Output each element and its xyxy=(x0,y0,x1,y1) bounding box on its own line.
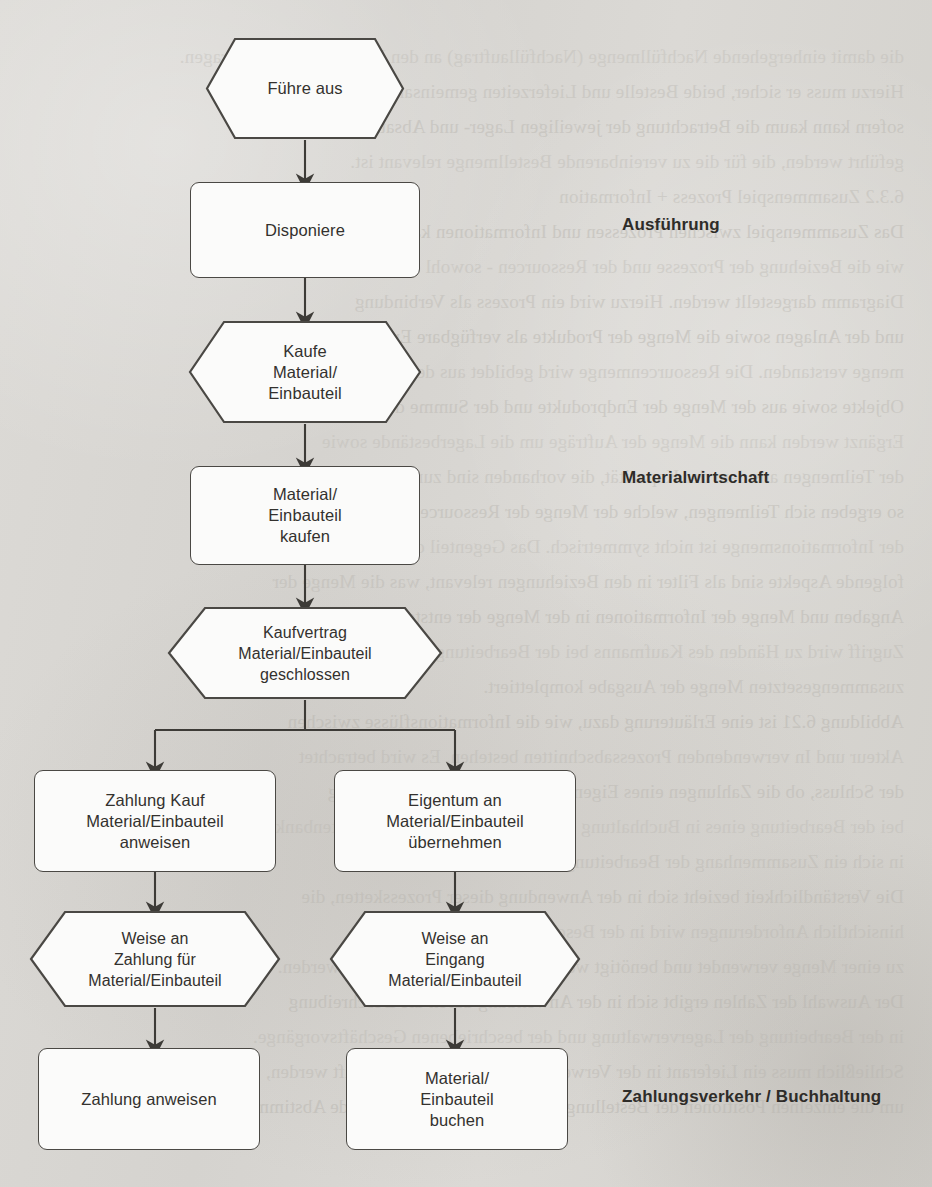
node-material-einbauteil-kaufen[interactable]: Material/Einbauteilkaufen xyxy=(190,466,420,565)
node-label: Material/Einbauteilkaufen xyxy=(262,484,347,547)
node-eigentum-uebernehmen[interactable]: Eigentum anMaterial/Einbauteilübernehmen xyxy=(334,770,576,872)
node-zahlung-anweisen[interactable]: Zahlung anweisen xyxy=(38,1048,260,1150)
node-label: Zahlung anweisen xyxy=(75,1089,223,1110)
node-label: KaufvertragMaterial/Einbauteilgeschlosse… xyxy=(232,622,378,685)
node-label: Eigentum anMaterial/Einbauteilübernehmen xyxy=(380,790,530,853)
node-weise-an-zahlung[interactable]: Weise anZahlung fürMaterial/Einbauteil xyxy=(29,910,281,1008)
node-label: Zahlung KaufMaterial/Einbauteilanweisen xyxy=(80,790,230,853)
node-label: Weise anZahlung fürMaterial/Einbauteil xyxy=(82,928,228,991)
node-weise-an-eingang[interactable]: Weise anEingangMaterial/Einbauteil xyxy=(329,910,581,1008)
flowchart-diagram: Führe aus Disponiere KaufeMaterial/Einba… xyxy=(0,0,932,1187)
swimlane-label-materialwirtschaft: Materialwirtschaft xyxy=(622,468,769,488)
node-label: Material/Einbauteilbuchen xyxy=(414,1068,499,1131)
node-zahlung-kauf-anweisen[interactable]: Zahlung KaufMaterial/Einbauteilanweisen xyxy=(34,770,276,872)
connector-lines xyxy=(0,0,932,1187)
node-label: Führe aus xyxy=(261,78,348,99)
node-label: KaufeMaterial/Einbauteil xyxy=(262,341,347,404)
node-label: Weise anEingangMaterial/Einbauteil xyxy=(382,928,528,991)
node-disponiere[interactable]: Disponiere xyxy=(190,182,420,278)
node-fuehre-aus[interactable]: Führe aus xyxy=(205,37,405,140)
node-material-einbauteil-buchen[interactable]: Material/Einbauteilbuchen xyxy=(346,1048,568,1150)
node-label: Disponiere xyxy=(259,220,351,241)
swimlane-label-zahlungsverkehr-buchhaltung: Zahlungsverkehr / Buchhaltung xyxy=(622,1087,881,1107)
node-kaufe-material-einbauteil[interactable]: KaufeMaterial/Einbauteil xyxy=(188,320,422,424)
swimlane-label-ausfuehrung: Ausführung xyxy=(622,215,720,235)
node-kaufvertrag-geschlossen[interactable]: KaufvertragMaterial/Einbauteilgeschlosse… xyxy=(167,606,443,700)
